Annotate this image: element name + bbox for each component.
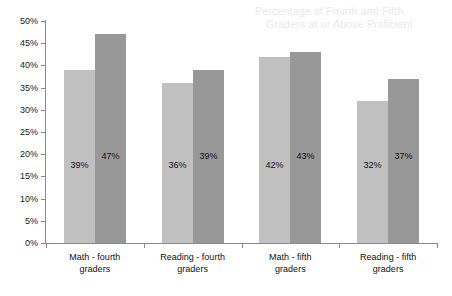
- y-axis-tick: [41, 199, 45, 200]
- y-axis-tick-label: 30%: [2, 106, 38, 115]
- y-axis-tick-label: 50%: [2, 17, 38, 26]
- bar-series-dark-0: [95, 34, 126, 243]
- category-label-line: graders: [138, 264, 248, 276]
- x-axis-category-label: Math - fourthgraders: [40, 252, 150, 275]
- y-axis-tick: [41, 176, 45, 177]
- y-axis-tick: [41, 243, 45, 244]
- x-axis-category-label: Reading - fifthgraders: [333, 252, 443, 275]
- y-axis-tick: [41, 88, 45, 89]
- y-axis-tick-label: 25%: [2, 128, 38, 137]
- y-axis-line: [45, 20, 46, 244]
- x-axis-tick: [339, 244, 340, 248]
- category-label-line: Math - fourth: [40, 252, 150, 264]
- y-axis-tick: [41, 132, 45, 133]
- bar-value-label: 39%: [63, 161, 97, 170]
- category-label-line: Math - fifth: [235, 252, 345, 264]
- y-axis-tick-label: 20%: [2, 150, 38, 159]
- category-label-line: graders: [333, 264, 443, 276]
- bar-value-label: 43%: [289, 152, 323, 161]
- watermark-text-line-1: Percentage of Fourth and Fifth: [255, 5, 403, 18]
- y-axis-tick-label: 5%: [2, 217, 38, 226]
- bar-series-dark-2: [290, 52, 321, 243]
- y-axis-tick-label: 15%: [2, 172, 38, 181]
- x-axis-tick: [144, 244, 145, 248]
- y-axis-tick: [41, 65, 45, 66]
- y-axis-tick: [41, 43, 45, 44]
- bar-series-dark-3: [388, 79, 419, 243]
- bar-chart: Percentage of Fourth and Fifth Graders a…: [0, 0, 452, 296]
- bar-value-label: 39%: [192, 152, 226, 161]
- y-axis-tick-label: 0%: [2, 239, 38, 248]
- bar-series-light-2: [259, 57, 290, 243]
- y-axis-tick: [41, 21, 45, 22]
- y-axis-tick: [41, 221, 45, 222]
- y-axis-tick: [41, 110, 45, 111]
- bar-value-label: 32%: [356, 161, 390, 170]
- bar-value-label: 37%: [387, 152, 421, 161]
- bar-value-label: 36%: [161, 161, 195, 170]
- x-axis-tick: [242, 244, 243, 248]
- x-axis-category-label: Reading - fourthgraders: [138, 252, 248, 275]
- y-axis-tick-label: 45%: [2, 39, 38, 48]
- bar-value-label: 42%: [258, 161, 292, 170]
- category-label-line: Reading - fourth: [138, 252, 248, 264]
- x-axis-tick: [46, 244, 47, 248]
- bar-series-light-3: [357, 101, 388, 243]
- category-label-line: graders: [40, 264, 150, 276]
- y-axis-tick: [41, 154, 45, 155]
- x-axis-tick: [437, 244, 438, 248]
- category-label-line: Reading - fifth: [333, 252, 443, 264]
- bar-series-light-0: [64, 70, 95, 243]
- bar-value-label: 47%: [94, 152, 128, 161]
- y-axis-tick-label: 10%: [2, 195, 38, 204]
- category-label-line: graders: [235, 264, 345, 276]
- watermark-text-line-2: Graders at or Above Proficient: [266, 18, 413, 31]
- y-axis-tick-label: 35%: [2, 84, 38, 93]
- y-axis-tick-label: 40%: [2, 61, 38, 70]
- x-axis-category-label: Math - fifthgraders: [235, 252, 345, 275]
